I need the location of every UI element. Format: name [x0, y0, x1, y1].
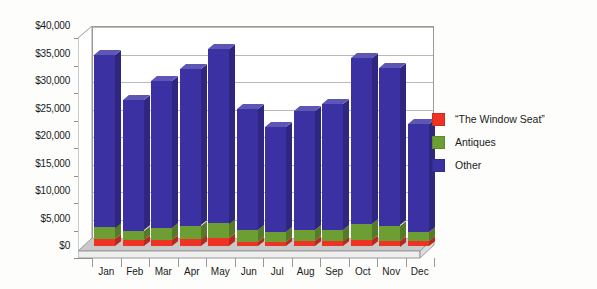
- bar-segment-front: [180, 239, 201, 246]
- y-axis-tick-label: $10,000: [35, 186, 70, 196]
- legend-item[interactable]: “The Window Seat”: [432, 112, 592, 126]
- bar-segment[interactable]: [379, 226, 400, 241]
- bar-segment-front: [123, 240, 144, 246]
- bar-segment[interactable]: [322, 241, 343, 246]
- x-axis-tick-label: Apr: [177, 266, 207, 277]
- x-axis-divider: [235, 258, 236, 267]
- bar-segment-front: [379, 226, 400, 241]
- bar-segment[interactable]: [379, 68, 400, 225]
- bar-segment-side: [286, 123, 292, 233]
- bar-segment[interactable]: [151, 228, 172, 240]
- bar-segment-front: [351, 58, 372, 224]
- x-axis-divider: [320, 258, 321, 267]
- bar-segment[interactable]: [151, 240, 172, 246]
- legend-item[interactable]: Other: [432, 158, 592, 172]
- y-axis-tick-label: $30,000: [35, 76, 70, 86]
- bar-segment[interactable]: [294, 111, 315, 230]
- bar-segment-side: [315, 106, 321, 230]
- bar-segment-front: [94, 239, 115, 246]
- legend-item-label: “The Window Seat”: [455, 113, 545, 125]
- bar-segment-side: [372, 54, 378, 224]
- bar-segment-front: [265, 127, 286, 232]
- bar-segment[interactable]: [123, 231, 144, 240]
- bar-segment-front: [151, 81, 172, 228]
- bar-segment[interactable]: [322, 230, 343, 242]
- bar-segment[interactable]: [351, 240, 372, 246]
- x-axis-tick-label: Jun: [234, 266, 264, 277]
- bar-segment-front: [379, 68, 400, 225]
- legend-color-swatch: [432, 113, 445, 126]
- x-axis-divider: [121, 258, 122, 267]
- bar-segment-front: [265, 232, 286, 242]
- bar-segment[interactable]: [265, 127, 286, 232]
- bar-segment[interactable]: [151, 81, 172, 228]
- bar-segment[interactable]: [351, 58, 372, 224]
- bar-segment-front: [237, 230, 258, 242]
- bar-segment[interactable]: [294, 230, 315, 241]
- bar-segment-front: [322, 230, 343, 242]
- bar-segment[interactable]: [265, 242, 286, 246]
- bar-segment[interactable]: [322, 104, 343, 230]
- bar-segment[interactable]: [123, 240, 144, 246]
- bar-segment[interactable]: [94, 55, 115, 228]
- y-axis-tick-label: $20,000: [35, 131, 70, 141]
- bar-segment[interactable]: [294, 241, 315, 246]
- legend-item[interactable]: Antiques: [432, 135, 592, 149]
- bar-segment[interactable]: [408, 124, 429, 232]
- bar-segment[interactable]: [379, 241, 400, 247]
- x-axis-tick-label: Sep: [319, 266, 349, 277]
- x-axis-tick-label: Aug: [291, 266, 321, 277]
- bar-segment-side: [343, 99, 349, 230]
- bar-segment[interactable]: [237, 230, 258, 242]
- bar-segment[interactable]: [208, 223, 229, 238]
- bar-segment-side: [201, 65, 207, 226]
- bar-segment[interactable]: [180, 69, 201, 225]
- bar-segment-front: [123, 100, 144, 230]
- bar-segment[interactable]: [180, 239, 201, 246]
- bar-segment-front: [123, 231, 144, 240]
- legend-color-swatch: [432, 136, 445, 149]
- bar-segment-front: [208, 49, 229, 224]
- bar-segment-front: [265, 242, 286, 246]
- bar-segment-side: [172, 76, 178, 228]
- x-axis-divider: [92, 258, 93, 267]
- bar-segment[interactable]: [408, 241, 429, 246]
- x-axis-tick-label: Jan: [91, 266, 121, 277]
- bar-segment-front: [322, 241, 343, 246]
- y-axis-tick-label: $0: [59, 241, 70, 251]
- bar-segment[interactable]: [237, 109, 258, 230]
- bar-segment-front: [94, 227, 115, 239]
- bar-segment[interactable]: [180, 226, 201, 240]
- bar-segment[interactable]: [351, 224, 372, 240]
- bar-segment-front: [294, 111, 315, 230]
- bar-segment-front: [180, 226, 201, 240]
- bar-segment[interactable]: [123, 100, 144, 230]
- chart-3d-stacked-column: $40,000$35,000$30,000$25,000$20,000$15,0…: [0, 0, 597, 289]
- legend-item-label: Other: [455, 159, 481, 171]
- bar-segment-front: [322, 104, 343, 230]
- x-axis-divider: [434, 258, 435, 267]
- bar-segment-front: [237, 242, 258, 246]
- bar-segment[interactable]: [94, 227, 115, 239]
- plot-side-wall: [78, 26, 93, 260]
- y-axis-tick-label: $15,000: [35, 159, 70, 169]
- y-axis-tick-label: $25,000: [35, 104, 70, 114]
- bar-segment-front: [408, 232, 429, 241]
- bar-segment-front: [208, 238, 229, 246]
- x-axis-divider: [178, 258, 179, 267]
- bar-segment-front: [408, 124, 429, 232]
- bar-segment[interactable]: [208, 238, 229, 246]
- bar-segment-front: [94, 55, 115, 228]
- x-axis-divider: [263, 258, 264, 267]
- bar-segment[interactable]: [94, 239, 115, 246]
- bar-segment[interactable]: [408, 232, 429, 241]
- y-axis-labels: $40,000$35,000$30,000$25,000$20,000$15,0…: [0, 0, 74, 289]
- bar-segment[interactable]: [208, 49, 229, 224]
- x-axis-tick-label: Mar: [148, 266, 178, 277]
- bar-series-group: [92, 26, 434, 246]
- x-axis-tick-label: Dec: [405, 266, 435, 277]
- bar-segment-side: [229, 44, 235, 224]
- x-axis-tick-label: Nov: [376, 266, 406, 277]
- bar-segment[interactable]: [237, 242, 258, 246]
- bar-segment[interactable]: [265, 232, 286, 242]
